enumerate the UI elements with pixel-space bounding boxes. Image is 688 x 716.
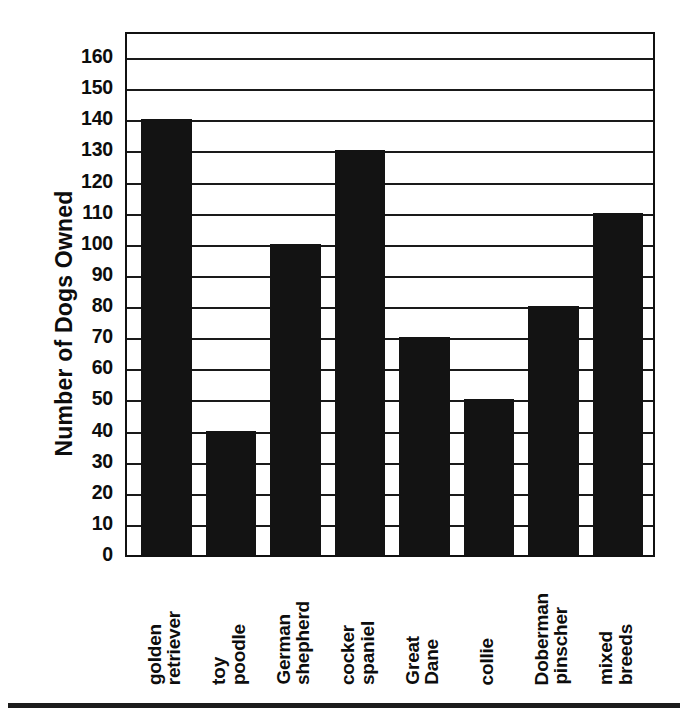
plot-area: [125, 32, 655, 557]
bar: [270, 244, 321, 555]
x-tick-label: cockerspaniel: [326, 560, 391, 685]
x-tick-label: toypoodle: [197, 560, 262, 685]
x-tick-label-line: retriever: [164, 611, 183, 685]
x-tick-label-line: cocker: [338, 625, 357, 685]
x-tick-label-line: pinscher: [551, 607, 570, 685]
y-tick-label: 130: [55, 141, 113, 161]
x-tick-label-line: German: [274, 614, 293, 685]
bar: [206, 431, 257, 556]
y-tick-label: 20: [55, 483, 113, 503]
x-tick-label: Dobermanpinscher: [519, 560, 584, 685]
x-tick-label-line: toy: [209, 657, 228, 685]
bar: [399, 337, 450, 555]
y-tick-label: 10: [55, 514, 113, 534]
bar: [528, 306, 579, 555]
x-tick-label-line: spaniel: [358, 621, 377, 685]
y-tick-label: 30: [55, 452, 113, 472]
y-tick-label: 80: [55, 296, 113, 316]
x-tick-label-line: Dane: [422, 639, 441, 685]
y-tick-label: 60: [55, 359, 113, 379]
bottom-divider-rule: [8, 703, 680, 708]
x-axis-category-labels: goldenretrievertoypoodleGermanshepherdco…: [125, 560, 655, 685]
x-tick-label-line: shepherd: [293, 601, 312, 685]
bar: [593, 213, 644, 555]
bars-group: [127, 34, 653, 555]
bar-chart-figure: Number of Dogs Owned 0102030405060708090…: [0, 0, 688, 716]
x-tick-label: Germanshepherd: [261, 560, 326, 685]
x-tick-label-line: breeds: [616, 624, 635, 685]
x-tick-label: GreatDane: [390, 560, 455, 685]
x-tick-label-line: Great: [403, 636, 422, 685]
x-tick-label-line: Doberman: [532, 593, 551, 685]
y-tick-label: 150: [55, 78, 113, 98]
x-tick-label: mixedbreeds: [584, 560, 649, 685]
x-tick-label: goldenretriever: [132, 560, 197, 685]
bar: [335, 150, 386, 555]
y-tick-label: 160: [55, 47, 113, 67]
y-tick-label: 120: [55, 172, 113, 192]
y-tick-label: 140: [55, 110, 113, 130]
bar: [141, 119, 192, 555]
x-tick-label: collie: [455, 560, 520, 685]
y-tick-label: 110: [55, 203, 113, 223]
x-tick-label-line: golden: [145, 624, 164, 685]
y-tick-label: 100: [55, 234, 113, 254]
y-tick-label: 40: [55, 421, 113, 441]
y-tick-label: 70: [55, 327, 113, 347]
y-tick-label: 0: [55, 545, 113, 565]
x-tick-label-line: collie: [477, 638, 496, 685]
x-tick-label-line: mixed: [596, 631, 615, 685]
y-axis-tick-labels: 0102030405060708090100110120130140150160: [55, 32, 113, 557]
y-tick-label: 90: [55, 265, 113, 285]
x-tick-label-line: poodle: [229, 624, 248, 685]
bar: [464, 399, 515, 555]
y-tick-label: 50: [55, 390, 113, 410]
